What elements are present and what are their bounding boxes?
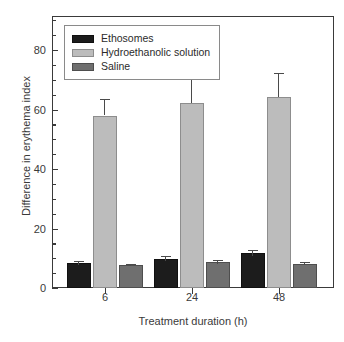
bar-saline-6h: [119, 265, 143, 288]
y-tick-major-40: [52, 169, 58, 170]
y-tick-minor: [52, 243, 56, 244]
y-tick-label-80: 80: [34, 45, 46, 56]
y-tick-minor: [52, 214, 56, 215]
bar-ethosomes-6h: [67, 263, 91, 288]
errorbar-cap-hydroethanolic-6h: [100, 99, 110, 100]
errorbar-cap-ethosomes-24h: [161, 256, 171, 257]
legend-swatch-hydroethanolic-solution: [72, 49, 94, 57]
legend-label-ethosomes: Ethosomes: [101, 33, 154, 44]
bar-saline-48h: [293, 264, 317, 288]
errorbar-cap-saline-6h: [126, 264, 136, 265]
x-axis-title: Treatment duration (h): [52, 315, 334, 327]
errorbar-cap-saline-48h: [300, 262, 310, 263]
y-tick-major-80: [52, 50, 58, 51]
legend-label-saline: Saline: [101, 61, 130, 72]
x-tick-label-6: 6: [75, 292, 135, 303]
errorbar-cap-saline-24h: [213, 260, 223, 261]
y-axis-title: Difference in erythema index: [20, 36, 32, 256]
y-tick-minor: [52, 80, 56, 81]
y-tick-major-20: [52, 229, 58, 230]
chart-legend: Ethosomes Hydroethanolic solution Saline: [64, 25, 220, 80]
x-tick-label-48: 48: [249, 292, 309, 303]
y-tick-minor: [52, 139, 56, 140]
errorbar-cap-ethosomes-6h: [74, 261, 84, 262]
y-tick-minor: [52, 20, 56, 21]
y-tick-minor: [52, 124, 56, 125]
legend-swatch-ethosomes: [72, 35, 94, 43]
y-tick-label-0: 0: [40, 283, 46, 294]
legend-label-hydroethanolic-solution: Hydroethanolic solution: [101, 47, 210, 58]
y-tick-label-20: 20: [34, 224, 46, 235]
y-tick-minor: [52, 35, 56, 36]
legend-item-saline: Saline: [72, 60, 210, 73]
y-tick-minor: [52, 95, 56, 96]
bar-hydroethanolic-6h: [93, 116, 117, 289]
y-tick-minor: [52, 154, 56, 155]
errorbar-cap-hydroethanolic-48h: [274, 73, 284, 74]
legend-swatch-saline: [72, 63, 94, 71]
errorbar-stem-hydroethanolic-6h: [104, 99, 105, 115]
errorbar-stem-hydroethanolic-24h: [191, 79, 192, 103]
errorbar-cap-ethosomes-48h: [248, 250, 258, 251]
y-tick-minor: [52, 184, 56, 185]
erythema-index-bar-chart: 0 20 40 60 80: [0, 0, 344, 342]
legend-item-ethosomes: Ethosomes: [72, 32, 210, 45]
y-tick-minor: [52, 65, 56, 66]
x-tick-label-24: 24: [162, 292, 222, 303]
y-tick-label-60: 60: [34, 105, 46, 116]
bar-hydroethanolic-48h: [267, 97, 291, 288]
bar-saline-24h: [206, 262, 230, 288]
bar-hydroethanolic-24h: [180, 103, 204, 288]
errorbar-stem-hydroethanolic-48h: [278, 73, 279, 97]
y-tick-minor: [52, 273, 56, 274]
bar-ethosomes-24h: [154, 259, 178, 288]
legend-item-hydroethanolic-solution: Hydroethanolic solution: [72, 46, 210, 59]
y-tick-major-0: [52, 288, 58, 289]
y-tick-minor: [52, 199, 56, 200]
y-tick-label-40: 40: [34, 164, 46, 175]
y-tick-minor: [52, 258, 56, 259]
bar-ethosomes-48h: [241, 253, 265, 288]
y-tick-major-60: [52, 110, 58, 111]
